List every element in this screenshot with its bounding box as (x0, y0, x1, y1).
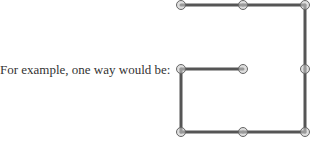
grid-node (239, 1, 248, 10)
grid-node (239, 128, 248, 137)
grid-path-diagram (0, 0, 310, 143)
grid-node (177, 65, 186, 74)
grid-node (301, 65, 310, 74)
grid-node (301, 1, 310, 10)
grid-node (301, 128, 310, 137)
grid-node (239, 65, 248, 74)
grid-node (177, 128, 186, 137)
grid-node (177, 1, 186, 10)
